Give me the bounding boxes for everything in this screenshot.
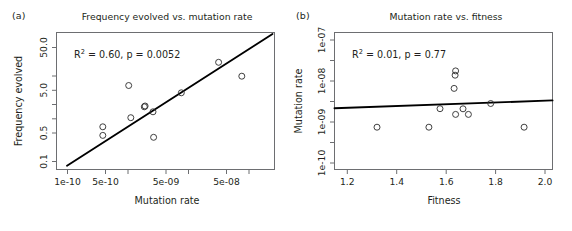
- data-point: [126, 83, 132, 89]
- panel-a-ytick-2: 5.0: [38, 83, 49, 98]
- panel-b-x-ticks: [347, 170, 545, 175]
- panel-a-label: (a): [12, 10, 26, 21]
- panel-a-ytick-3: 50.0: [38, 37, 49, 58]
- panel-a-x-ticklabels: 1e-10 5e-10 5e-09 5e-08: [54, 176, 240, 187]
- data-point: [426, 124, 432, 130]
- panel-a-ytick-1: 0.5: [38, 126, 49, 141]
- panel-b-x-ticklabels: 1.2 1.4 1.6 1.8 2.0: [340, 176, 552, 187]
- panel-a-y-ticklabels: 50.0 5.0 0.5 0.1: [38, 37, 49, 169]
- data-point: [100, 132, 106, 138]
- data-point: [239, 73, 245, 79]
- panel-a-y-ticks: [52, 48, 57, 162]
- panel-a-plot: Frequency evolved vs. mutation rate 50.0…: [0, 0, 286, 231]
- panel-b-annotation: R2 = 0.01, p = 0.77: [352, 48, 446, 60]
- panel-b-ytick-0: 1e-10: [316, 150, 327, 177]
- data-point: [437, 106, 443, 112]
- panel-a-xtick-1: 5e-10: [92, 176, 119, 187]
- panel-b-ytick-2: 1e-08: [316, 68, 327, 95]
- panel-b-y-ticklabels: 1e-07 1e-08 1e-09 1e-10: [316, 27, 327, 177]
- svg-text:R2 = 0.60, p = 0.0052: R2 = 0.60, p = 0.0052: [74, 48, 180, 60]
- panel-a-ylabel: Frequency evolved: [13, 56, 24, 146]
- panel-b-plot: Mutation rate vs. fitness 1e-07 1e-08 1e…: [286, 0, 572, 231]
- data-point: [453, 111, 459, 117]
- panel-b-ylabel: Mutation rate: [293, 68, 304, 133]
- panel-b-xtick-0: 1.2: [340, 176, 355, 187]
- panel-a-annotation: R2 = 0.60, p = 0.0052: [74, 48, 180, 60]
- data-point: [451, 85, 457, 91]
- panel-b: (b) Mutation rate vs. fitness 1e-07 1e-0…: [286, 0, 572, 231]
- panel-a-data-points: [100, 59, 245, 140]
- panel-a-x-ticks: [68, 170, 250, 175]
- panel-b-xtick-1: 1.4: [389, 176, 404, 187]
- panel-b-data-points: [374, 68, 527, 130]
- data-point: [216, 59, 222, 65]
- panel-b-xtick-4: 2.0: [538, 176, 553, 187]
- panel-b-label: (b): [296, 10, 310, 21]
- panel-b-title: Mutation rate vs. fitness: [390, 11, 503, 22]
- panel-b-annot-suffix: = 0.01, p = 0.77: [363, 49, 446, 60]
- data-point: [460, 106, 466, 112]
- panel-b-xlabel: Fitness: [427, 195, 460, 206]
- svg-text:R2 = 0.01, p = 0.77: R2 = 0.01, p = 0.77: [352, 48, 446, 60]
- panel-b-xtick-2: 1.6: [439, 176, 454, 187]
- panel-b-xtick-3: 1.8: [488, 176, 503, 187]
- panel-a: (a) Frequency evolved vs. mutation rate …: [0, 0, 286, 231]
- panel-b-ytick-3: 1e-07: [316, 27, 327, 54]
- data-point: [521, 124, 527, 130]
- data-point: [100, 124, 106, 130]
- data-point: [465, 111, 471, 117]
- figure-container: (a) Frequency evolved vs. mutation rate …: [0, 0, 572, 231]
- panel-a-xlabel: Mutation rate: [135, 195, 200, 206]
- panel-a-xtick-3: 5e-08: [213, 176, 240, 187]
- panel-a-ytick-0: 0.1: [38, 154, 49, 169]
- panel-a-xtick-2: 5e-09: [153, 176, 180, 187]
- panel-b-ytick-1: 1e-09: [316, 109, 327, 136]
- panel-a-xtick-0: 1e-10: [54, 176, 81, 187]
- panel-a-annot-suffix: = 0.60, p = 0.0052: [85, 49, 180, 60]
- data-point: [128, 115, 134, 121]
- data-point: [374, 124, 380, 130]
- data-point: [453, 68, 459, 74]
- data-point: [151, 134, 157, 140]
- panel-a-title: Frequency evolved vs. mutation rate: [82, 11, 253, 22]
- panel-b-fit-line: [335, 100, 553, 108]
- panel-b-y-ticks: [330, 40, 335, 163]
